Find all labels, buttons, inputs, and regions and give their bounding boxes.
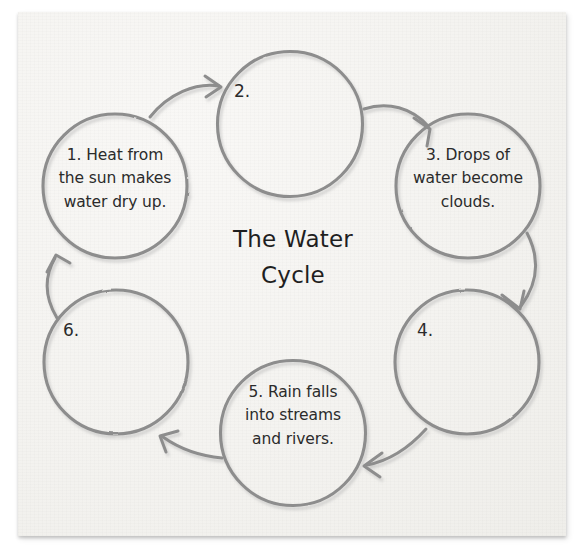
- cycle-node-1-circle[interactable]: [43, 114, 187, 258]
- cycle-arrow-1-to-2: [150, 76, 221, 117]
- cycle-arrow-3-to-4: [502, 233, 535, 309]
- cycle-node-5-circle[interactable]: [221, 361, 366, 506]
- cycle-arrow-5-to-6: [160, 431, 222, 458]
- cycle-node-2-circle[interactable]: [218, 52, 363, 197]
- cycle-arrow-4-to-5: [364, 429, 426, 477]
- worksheet-canvas: 1. Heat from the sun makes water dry up.…: [0, 0, 586, 553]
- cycle-node-3-circle[interactable]: [396, 114, 540, 258]
- cycle-node-6-circle[interactable]: [44, 290, 188, 434]
- cycle-arrow-2-to-3: [364, 106, 430, 146]
- cycle-node-4-circle[interactable]: [395, 290, 539, 434]
- water-cycle-diagram: [0, 0, 586, 553]
